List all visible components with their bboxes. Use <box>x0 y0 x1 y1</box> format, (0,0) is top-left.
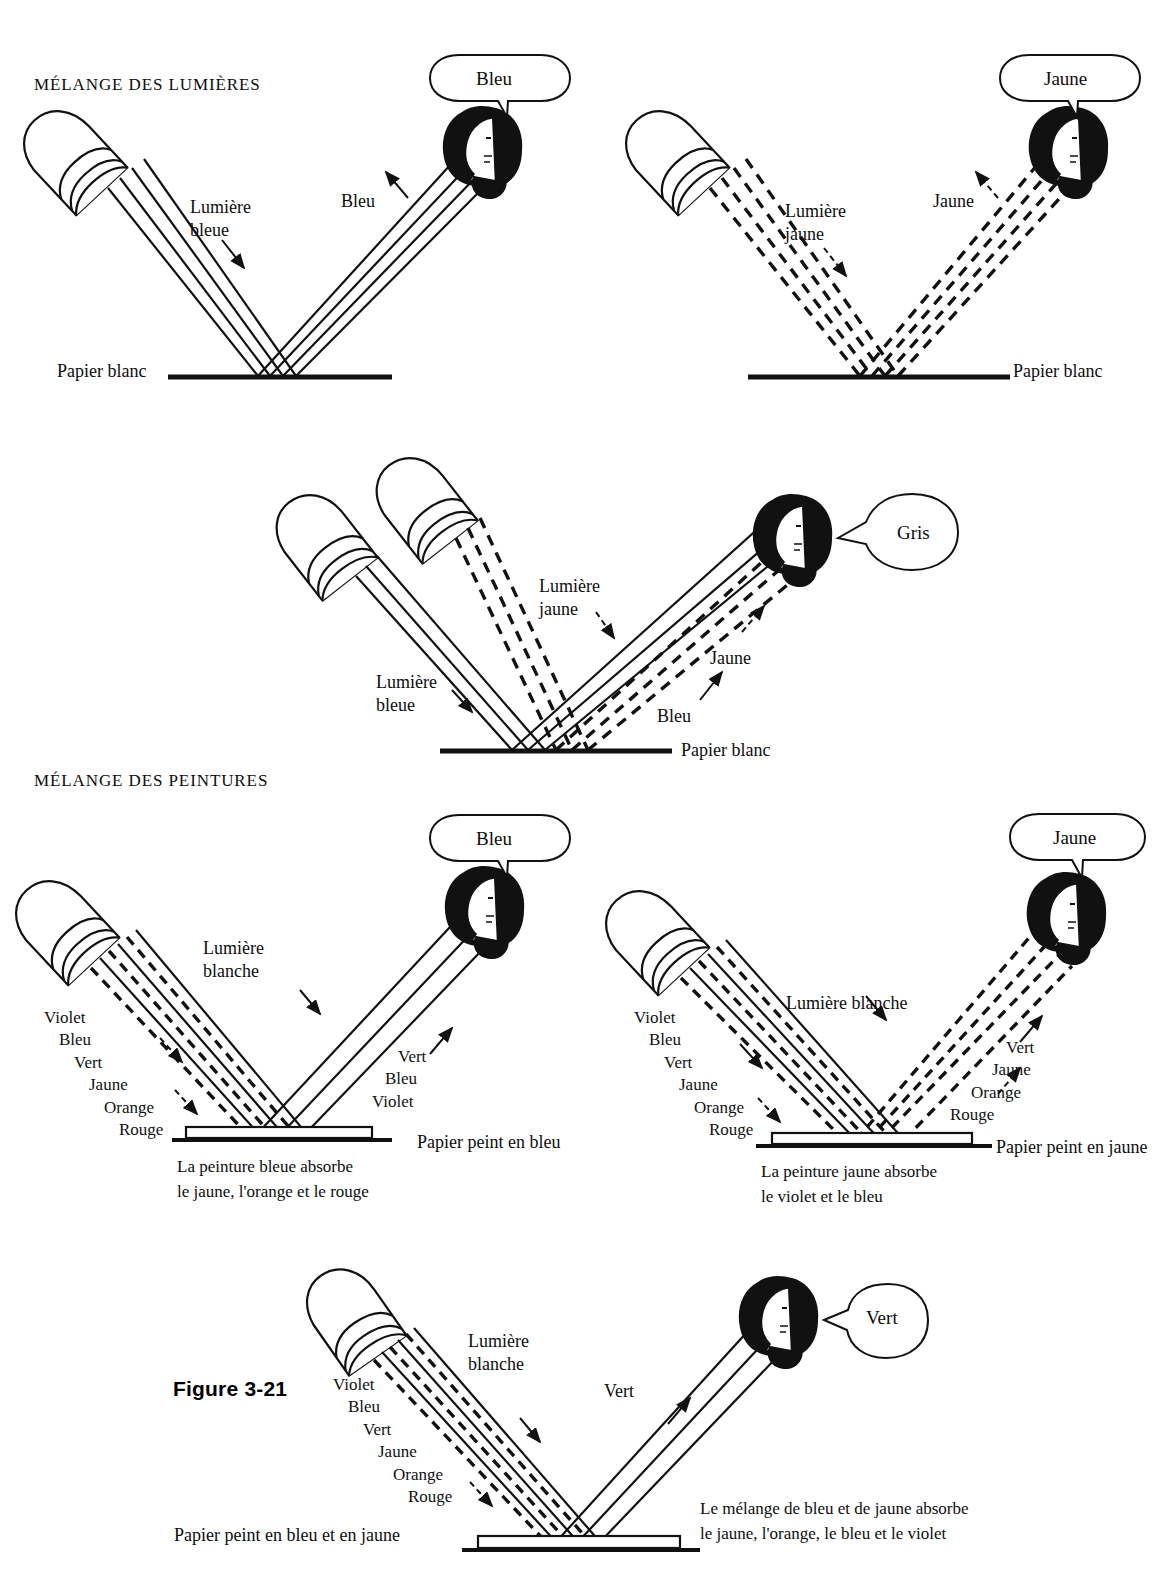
spectrum-item: Bleu <box>649 1029 753 1051</box>
caption-green-paint: Le mélange de bleu et de jaune absorbele… <box>700 1497 969 1546</box>
spectrum-item: Vert <box>398 1046 426 1068</box>
spectrum-item: Violet <box>333 1374 452 1396</box>
speech-bubble-label-blue-light: Bleu <box>476 67 512 91</box>
observer-head-1 <box>443 106 522 199</box>
caption-yellow-paint: La peinture jaune absorbele violet et le… <box>761 1160 937 1209</box>
spectrum-item: Vert <box>363 1419 452 1441</box>
surface-label-green-paint: Papier peint en bleu et en jaune <box>174 1524 400 1547</box>
panel-yellow-light-drawing <box>611 55 1140 377</box>
outgoing-beam-label-gris-blue: Bleu <box>657 705 691 728</box>
speech-bubble-label-green-paint: Vert <box>866 1306 898 1330</box>
spectrum-item: Vert <box>664 1052 753 1074</box>
spectrum-item: Vert <box>74 1052 163 1074</box>
spectrum-item: Rouge <box>709 1119 753 1141</box>
outgoing-beam-label-gris-yellow: Jaune <box>710 647 751 670</box>
incoming-spectrum-green-paint: Violet Bleu Vert Jaune Orange Rouge <box>333 1374 452 1509</box>
section-heading-lumieres: MÉLANGE DES LUMIÈRES <box>34 74 261 96</box>
speech-bubble-label-blue-paint: Bleu <box>476 827 512 851</box>
spectrum-item: Violet <box>372 1091 426 1113</box>
speech-bubble-label-yellow-paint: Jaune <box>1053 826 1096 850</box>
caption-blue-paint: La peinture bleue absorbele jaune, l'ora… <box>177 1155 369 1204</box>
surface-label-yellow-light: Papier blanc <box>1013 360 1102 383</box>
outgoing-beam-label-yellow-light: Jaune <box>933 190 974 213</box>
speech-bubble-label-gris: Gris <box>897 521 930 545</box>
incoming-beam-label-gris-blue: Lumièrebleue <box>376 671 437 717</box>
incoming-beam-label-gris-yellow: Lumièrejaune <box>539 575 600 621</box>
panel-gris-drawing <box>262 443 958 751</box>
incoming-spectrum-blue-paint: Violet Bleu Vert Jaune Orange Rouge <box>44 1007 163 1142</box>
section-heading-peintures: MÉLANGE DES PEINTURES <box>34 770 268 792</box>
incoming-beam-label-blue-paint: Lumièreblanche <box>203 937 264 983</box>
observer-head-3 <box>753 494 832 587</box>
spectrum-item: Rouge <box>950 1104 1034 1126</box>
spectrum-item: Orange <box>694 1097 753 1119</box>
spectrum-item: Bleu <box>385 1068 426 1090</box>
spectrum-item: Jaune <box>679 1074 753 1096</box>
incoming-beam-label-yellow-light: Lumièrejaune <box>785 200 846 246</box>
spectrum-item: Orange <box>393 1464 452 1486</box>
panel-blue-light-drawing <box>9 55 570 377</box>
spectrum-item: Violet <box>44 1007 163 1029</box>
observer-head-5 <box>1027 872 1106 965</box>
incoming-beam-label-green-paint: Lumièreblanche <box>468 1330 529 1376</box>
spectrum-item: Rouge <box>408 1486 452 1508</box>
spectrum-item: Violet <box>634 1007 753 1029</box>
spectrum-item: Bleu <box>59 1029 163 1051</box>
outgoing-beam-label-green-paint: Vert <box>604 1380 634 1403</box>
surface-label-blue-paint: Papier peint en bleu <box>417 1131 560 1154</box>
observer-head-6 <box>739 1276 818 1369</box>
speech-bubble-label-yellow-light: Jaune <box>1044 67 1087 91</box>
outgoing-beam-label-blue-light: Bleu <box>341 190 375 213</box>
incoming-beam-label-blue-light: Lumièrebleue <box>190 196 251 242</box>
figure-page: MÉLANGE DES LUMIÈRES MÉLANGE DES PEINTUR… <box>0 0 1165 1572</box>
spectrum-item: Vert <box>1006 1037 1034 1059</box>
spectrum-item: Orange <box>971 1082 1034 1104</box>
incoming-beam-label-yellow-paint: Lumière blanche <box>786 992 907 1015</box>
spectrum-item: Orange <box>104 1097 163 1119</box>
surface-label-blue-light: Papier blanc <box>57 360 146 383</box>
figure-number: Figure 3-21 <box>173 1376 287 1403</box>
outgoing-spectrum-blue-paint: Vert Bleu Violet <box>372 1046 426 1113</box>
surface-label-yellow-paint: Papier peint en jaune <box>996 1136 1147 1159</box>
observer-head-2 <box>1029 106 1108 199</box>
incoming-spectrum-yellow-paint: Violet Bleu Vert Jaune Orange Rouge <box>634 1007 753 1142</box>
spectrum-item: Jaune <box>378 1441 452 1463</box>
spectrum-item: Jaune <box>89 1074 163 1096</box>
spectrum-item: Jaune <box>992 1059 1034 1081</box>
spectrum-item: Bleu <box>348 1396 452 1418</box>
observer-head-4 <box>445 866 524 959</box>
surface-label-gris: Papier blanc <box>681 739 770 762</box>
spectrum-item: Rouge <box>119 1119 163 1141</box>
outgoing-spectrum-yellow-paint: Vert Jaune Orange Rouge <box>950 1037 1034 1127</box>
